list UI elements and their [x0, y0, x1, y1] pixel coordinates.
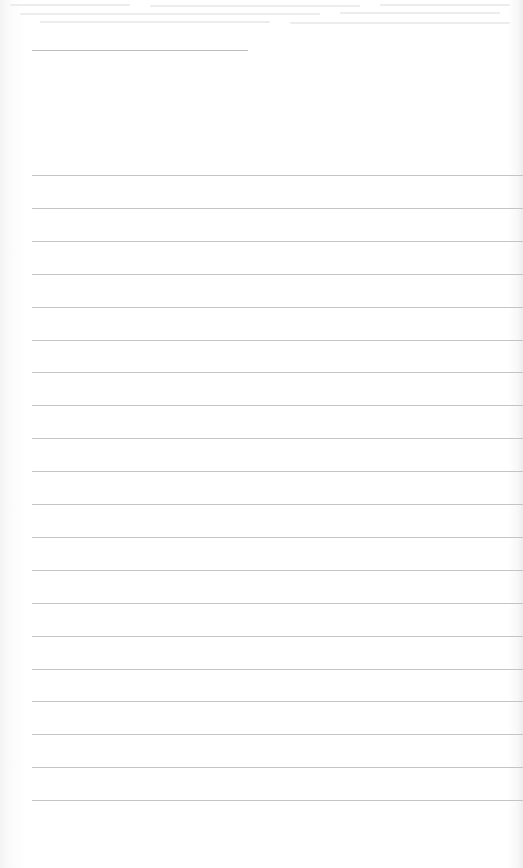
ruled-line	[32, 175, 523, 176]
ruled-line	[32, 636, 523, 637]
ruled-line	[32, 274, 523, 275]
ruled-line	[32, 701, 523, 702]
ruled-line	[32, 405, 523, 406]
ruled-line	[32, 372, 523, 373]
ruled-line	[32, 241, 523, 242]
ruled-line	[32, 800, 523, 801]
ruled-line	[32, 570, 523, 571]
ruled-line	[32, 340, 523, 341]
ruled-line	[32, 471, 523, 472]
ruled-line	[32, 307, 523, 308]
lined-paper-page	[0, 0, 523, 868]
ruled-line	[32, 537, 523, 538]
ruled-line	[32, 669, 523, 670]
ruled-line	[32, 767, 523, 768]
ruled-line	[32, 438, 523, 439]
ruled-line	[32, 734, 523, 735]
ruled-line	[32, 603, 523, 604]
ruled-lines	[0, 0, 523, 868]
ruled-line	[32, 208, 523, 209]
ruled-line	[32, 504, 523, 505]
